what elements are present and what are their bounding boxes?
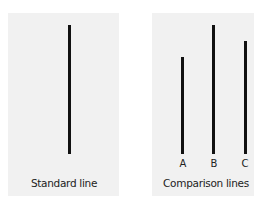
standard-line-caption: Standard line	[31, 178, 97, 189]
comparison-lines-caption: Comparison lines	[163, 178, 249, 189]
comparison-line-a	[181, 57, 184, 154]
comparison-line-a-label: A	[180, 159, 187, 169]
standard-line-panel	[8, 13, 119, 196]
comparison-line-c	[244, 41, 247, 154]
comparison-line-b	[212, 25, 215, 154]
comparison-lines-panel	[152, 13, 254, 196]
diagram-canvas: Standard line A B C Comparison lines	[0, 0, 254, 204]
comparison-line-b-label: B	[211, 159, 218, 169]
standard-line	[68, 25, 71, 154]
comparison-line-c-label: C	[242, 159, 249, 169]
